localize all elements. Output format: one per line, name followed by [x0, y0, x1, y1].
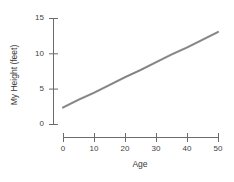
x-tick-label-0: 0	[61, 145, 65, 153]
x-tick-label-30: 30	[152, 145, 161, 153]
y-tick-label-5: 5	[26, 85, 44, 93]
x-tick-label-10: 10	[90, 145, 99, 153]
data-series-my-height	[63, 32, 218, 108]
y-tick-label-10: 10	[26, 50, 44, 58]
y-tick-label-15: 15	[26, 14, 44, 22]
x-axis-title: Age	[132, 160, 147, 169]
x-tick-label-50: 50	[214, 145, 223, 153]
y-tick-label-0: 0	[26, 120, 44, 128]
x-tick-label-40: 40	[183, 145, 192, 153]
chart-figure: 15 10 5 0 0 10 20 30 40 50 Age My Height…	[0, 0, 234, 182]
y-axis-title: My Height (feet)	[10, 45, 19, 105]
x-tick-label-20: 20	[121, 145, 130, 153]
series-line	[63, 32, 218, 108]
